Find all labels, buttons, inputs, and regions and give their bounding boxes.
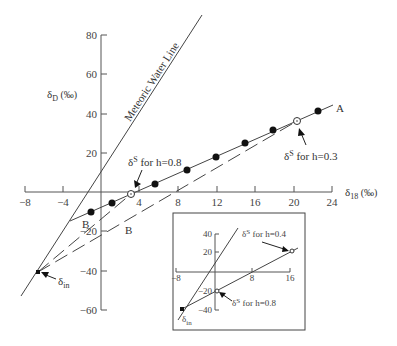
inset-x-tick-16: 16 (286, 273, 296, 283)
inset-input-point (180, 307, 184, 311)
x-tick-24: 24 (327, 196, 339, 208)
x-tick-4: 4 (136, 196, 142, 208)
inset-y-tick-neg40: −40 (198, 305, 213, 315)
arrow-ds-h08 (134, 170, 142, 188)
y-tick-20: 20 (86, 147, 98, 159)
input-point (36, 270, 40, 274)
x-tick-8: 8 (175, 196, 181, 208)
hollow-point-h08 (128, 191, 135, 198)
x-tick-neg8: −8 (19, 196, 31, 208)
annotation-din: δin (58, 275, 69, 290)
inset-x-tick-neg8: −8 (171, 273, 181, 283)
y-axis (101, 35, 107, 310)
y-tick-60: 60 (86, 68, 98, 80)
label-A: A (336, 102, 344, 114)
y-tick-40: 40 (86, 108, 98, 120)
x-tick-labels: −8 −4 4 8 12 16 20 24 (19, 196, 338, 208)
y-tick-80: 80 (86, 29, 98, 41)
y-tick-neg60: −60 (80, 304, 98, 316)
y-tick-neg40: −40 (80, 265, 98, 277)
annotation-ds-h03: δS for h=0.3 (284, 149, 338, 162)
label-B-right: B (125, 224, 132, 236)
x-axis (25, 186, 332, 192)
x-axis-label: δ18 (‰) (345, 186, 377, 201)
hollow-point-h03 (294, 118, 301, 125)
inset-y-tick-40: 40 (203, 229, 213, 239)
inset-chart: 40 20 −20 −40 −8 8 16 δS for h=0.4 δS fo… (171, 213, 305, 330)
x-tick-12: 12 (212, 196, 223, 208)
x-tick-16: 16 (250, 196, 262, 208)
y-axis-label: δD (‰) (47, 88, 77, 103)
meteoric-water-line-label: Meteoric Water Line (122, 40, 182, 123)
annotation-ds-h08: δS for h=0.8 (128, 155, 182, 168)
arrow-ds-h03 (298, 128, 306, 145)
inset-point-h08 (215, 289, 219, 293)
isotope-chart: 80 60 40 20 −20 −40 −60 −8 −4 4 8 12 16 … (0, 0, 397, 346)
x-tick-20: 20 (289, 196, 301, 208)
inset-x-tick-8: 8 (250, 273, 255, 283)
x-tick-neg4: −4 (57, 196, 69, 208)
dashed-line-h08 (38, 194, 131, 272)
y-tick-labels: 80 60 40 20 −20 −40 −60 (80, 29, 98, 316)
inset-point-h04 (290, 249, 294, 253)
inset-y-tick-20: 20 (203, 247, 213, 257)
arrow-din (41, 272, 56, 279)
label-B-left: B (82, 218, 89, 230)
